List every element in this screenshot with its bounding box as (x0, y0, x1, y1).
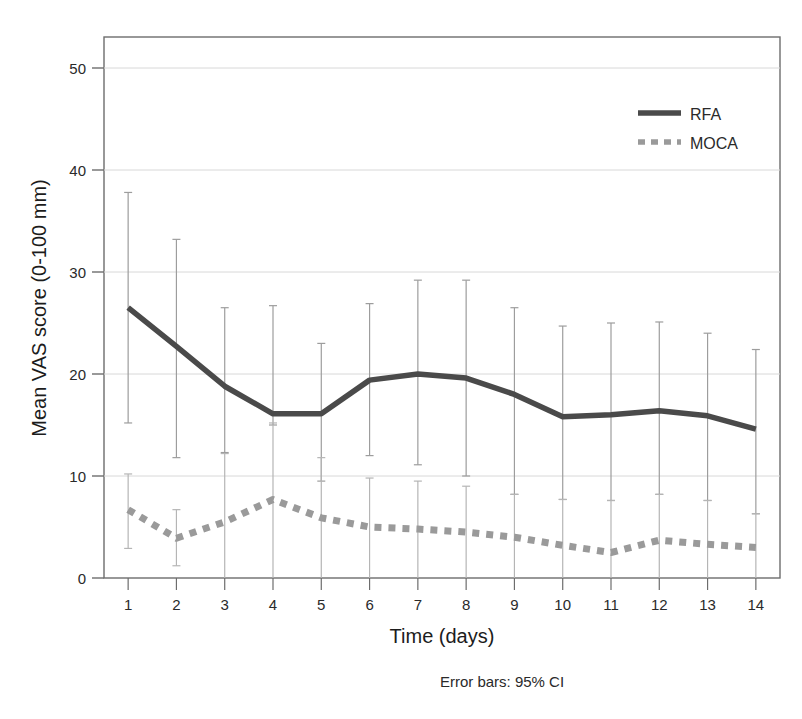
legend-label-moca: MOCA (690, 135, 738, 152)
x-tick-label: 4 (269, 596, 277, 613)
x-tick-label: 3 (221, 596, 229, 613)
x-tick-label: 1 (124, 596, 132, 613)
legend-label-rfa: RFA (690, 106, 721, 123)
x-tick-label: 5 (317, 596, 325, 613)
x-tick-label: 14 (748, 596, 765, 613)
x-tick-label: 9 (510, 596, 518, 613)
y-tick-label: 50 (69, 60, 86, 77)
vas-score-line-chart: 01020304050 1234567891011121314 Mean VAS… (0, 0, 802, 719)
x-tick-label: 11 (603, 596, 619, 613)
x-tick-label: 8 (462, 596, 470, 613)
footnote-text: Error bars: 95% CI (440, 673, 564, 690)
y-tick-label: 30 (69, 264, 86, 281)
y-tick-label: 40 (69, 162, 86, 179)
y-tick-label: 0 (78, 570, 86, 587)
x-tick-label: 13 (699, 596, 716, 613)
x-axis-title: Time (days) (390, 625, 495, 647)
x-tick-label: 7 (414, 596, 422, 613)
x-tick-label: 6 (365, 596, 373, 613)
chart-page: 01020304050 1234567891011121314 Mean VAS… (0, 0, 802, 719)
y-axis-title: Mean VAS score (0-100 mm) (28, 179, 50, 437)
y-tick-label: 10 (69, 468, 86, 485)
x-tick-label: 10 (554, 596, 571, 613)
y-tick-label: 20 (69, 366, 86, 383)
x-tick-label: 12 (651, 596, 668, 613)
chart-background (0, 0, 802, 719)
x-tick-label: 2 (172, 596, 180, 613)
